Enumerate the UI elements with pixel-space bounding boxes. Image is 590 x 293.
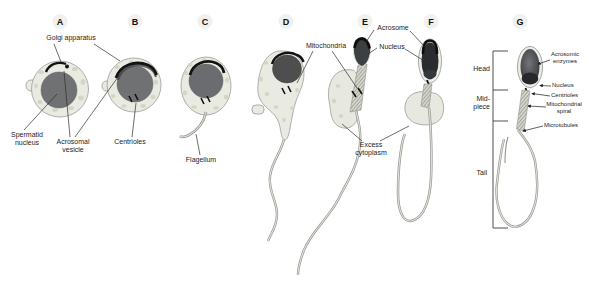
nucleus-label: Nucleus (379, 43, 404, 51)
nucleus-d (273, 55, 302, 83)
spermatid-nucleus-a (41, 72, 77, 108)
mitochondrial-spiral-arrow (528, 106, 546, 107)
mitochondria-label: Mitochondria (306, 42, 346, 50)
g-centrioles-label: Centrioles (551, 92, 578, 99)
stage-letter-c: C (202, 17, 209, 27)
acrosome-label: Acrosome (377, 24, 409, 32)
mitochondrial-spiral-g (517, 90, 531, 131)
region-head-label: Head (473, 65, 490, 73)
flagellum-d (268, 139, 284, 241)
stage-letter-badges (53, 14, 528, 29)
nucleus-arrow (540, 86, 551, 87)
spermatid-nucleus-label: Spermatid nucleus (11, 131, 43, 147)
acrosomic-enzymes-label: Acrosomic enzymes (551, 51, 579, 64)
flagellum-label: Flagellum (186, 156, 216, 164)
cell-f-spermatid (398, 39, 444, 221)
centrioles-arrow (532, 94, 550, 97)
mitochondrial-spiral-label: Mitochondrial spiral (546, 101, 582, 114)
tail-tip-g (505, 137, 508, 163)
region-tail-label: Tail (476, 169, 487, 177)
microtubules-arrow (523, 126, 543, 131)
flagellum-pointer (196, 134, 200, 155)
cell-a-spermatid (26, 61, 89, 117)
cell-d-spermatid (252, 51, 304, 241)
centrioles-label: Centrioles (114, 138, 146, 146)
stage-letter-d: D (283, 17, 290, 27)
microtubules-label: Microtubules (544, 122, 578, 129)
acrosome-pointer-f (410, 31, 426, 48)
stage-letter-g: G (516, 17, 523, 27)
flagellum-c (180, 112, 206, 137)
stage-letter-b: B (132, 17, 139, 27)
flagellum-e (298, 111, 360, 275)
region-midpiece-label: Mid- piece (473, 95, 490, 111)
g-nucleus-label: Nucleus (552, 82, 574, 89)
acrosomal-vesicle-a (65, 65, 69, 69)
golgi-pointer-b (94, 44, 120, 61)
cell-g-mature-sperm (496, 47, 542, 227)
cell-c-spermatid (180, 57, 231, 137)
region-bracket (493, 51, 508, 228)
excess-cytoplasm-pointer-f (380, 126, 409, 141)
stage-letter-a: A (57, 17, 64, 27)
nucleus-g (522, 73, 539, 85)
stage-letter-e: E (362, 17, 368, 27)
tail-g (496, 130, 537, 227)
excess-cytoplasm-label: Excess cytoplasm (355, 141, 387, 157)
cell-b-spermatid (102, 58, 161, 112)
golgi-apparatus-label: Golgi apparatus (46, 34, 95, 42)
golgi-pointer-a (54, 44, 61, 62)
spermiogenesis-diagram: A B C D E F G Golgi apparatus Spermatid … (0, 0, 590, 293)
acrosomal-vesicle-label: Acrosomal vesicle (56, 138, 89, 154)
acrosome-pointer-e (366, 30, 374, 42)
stage-letter-f: F (428, 17, 434, 27)
